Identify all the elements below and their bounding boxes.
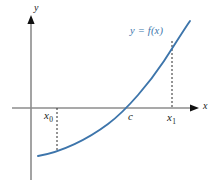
x0-label-subscript: 0 — [49, 115, 53, 124]
y-axis-arrow-icon — [27, 15, 34, 24]
x-axis-arrow-icon — [190, 104, 199, 111]
x1-label-subscript: 1 — [172, 117, 176, 126]
graph-canvas — [0, 0, 215, 180]
x-axis-label: x — [203, 101, 207, 111]
curve-equation-label: y = f(x) — [130, 26, 163, 37]
function-curve — [38, 21, 190, 156]
x0-label: x0 — [44, 110, 53, 121]
c-label: c — [128, 111, 133, 122]
y-axis-label: y — [34, 3, 38, 13]
x1-label: x1 — [167, 112, 176, 123]
function-graph-figure: y x x0 c x1 y = f(x) — [0, 0, 215, 180]
